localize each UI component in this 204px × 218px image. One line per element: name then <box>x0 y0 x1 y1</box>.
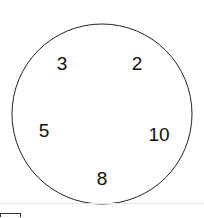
number-10: 10 <box>148 124 169 145</box>
answer-box[interactable] <box>1 214 21 218</box>
number-8: 8 <box>97 168 108 189</box>
number-5: 5 <box>39 120 50 141</box>
number-2: 2 <box>132 53 143 74</box>
number-circle-diagram: 3 2 5 10 8 <box>0 0 204 217</box>
number-3: 3 <box>57 53 68 74</box>
